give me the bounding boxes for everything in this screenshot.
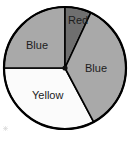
pie-chart-figure: Blue Red Blue Yellow [0,0,132,141]
corner-speck-icon [3,126,8,131]
pie-center-hub [62,65,67,70]
pie-chart-canvas [0,0,132,141]
